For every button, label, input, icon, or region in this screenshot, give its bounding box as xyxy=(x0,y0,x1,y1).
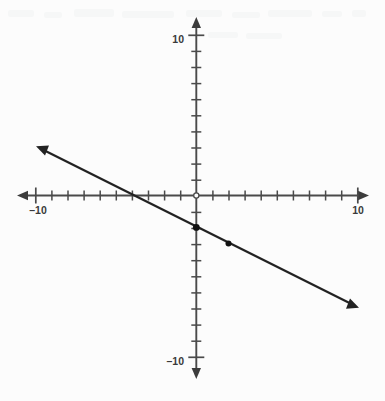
x-axis-label-minus10: –10 xyxy=(29,204,47,216)
x-axis-left-arrow-icon xyxy=(17,191,28,200)
origin-marker xyxy=(194,193,199,198)
graph-canvas xyxy=(0,0,385,401)
plotted-line-right-arrow-icon xyxy=(346,299,359,309)
x-axis-label-10: 10 xyxy=(352,204,364,216)
y-axis-bottom-arrow-icon xyxy=(192,368,201,379)
coordinate-plane-figure: –10 10 10 –10 xyxy=(0,0,385,401)
y-axis-top-arrow-icon xyxy=(192,17,201,28)
x-axis-right-arrow-icon xyxy=(358,191,369,200)
plotted-line-left-arrow-icon xyxy=(36,145,49,155)
x-axis xyxy=(17,188,369,204)
y-axis-label-minus10: –10 xyxy=(166,355,184,367)
plotted-point-y-intercept xyxy=(193,224,200,231)
plotted-point-second xyxy=(226,241,232,247)
y-axis-label-10: 10 xyxy=(172,33,184,45)
